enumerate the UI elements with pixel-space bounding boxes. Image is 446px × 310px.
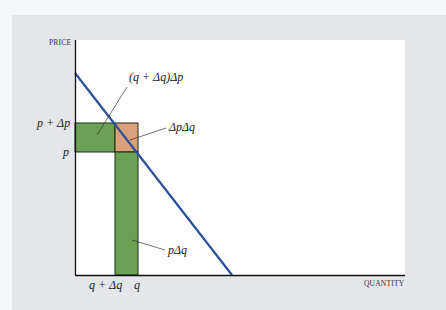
tick-p: p	[63, 145, 69, 160]
tick-p-plus-dp: p + Δp	[37, 116, 70, 131]
demand-curve	[75, 73, 232, 275]
tick-q-plus-dq: q + Δq	[89, 278, 122, 293]
region-top-band	[75, 123, 115, 152]
label-top-area: (q + Δq)Δp	[129, 70, 183, 85]
region-vertical-strip	[115, 152, 138, 275]
y-axis-label: PRICE	[49, 38, 71, 47]
x-axis-label: QUANTITY	[364, 279, 404, 288]
label-strip: pΔq	[168, 243, 187, 258]
label-corner: ΔpΔq	[169, 120, 195, 135]
tick-q: q	[134, 278, 140, 293]
